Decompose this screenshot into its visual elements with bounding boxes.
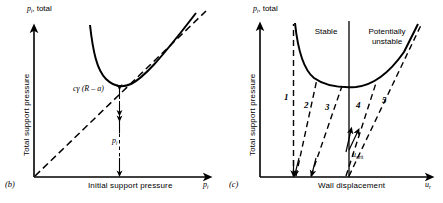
panel-b-x-axis-title: Initial support pressure — [88, 181, 173, 190]
panel-c-region-unstable-line1: Potentially — [369, 27, 406, 36]
panel-b-y-top-rest: , total — [32, 4, 52, 13]
panel-c-region-stable-label: Stable — [306, 27, 346, 37]
panel-b-x-var-sub: i — [207, 184, 208, 190]
panel-b-y-axis-title: Total support pressure — [22, 74, 31, 156]
panel-c-y-top-label: pi, total — [253, 4, 278, 16]
panel-c-y-top-rest: , total — [258, 4, 278, 13]
panel-c-support-line-2 — [296, 79, 317, 176]
panel-c-ucrit-sub: crit — [356, 154, 363, 160]
panel-c-y-axis-title: Total support pressure — [248, 74, 257, 156]
panel-c-ucrit-label: ucrit — [352, 150, 363, 162]
panel-b-total-pressure-curve — [90, 13, 196, 86]
panel-b-pi-annotation: pi — [112, 136, 117, 148]
panel-c-tag: (c) — [229, 180, 238, 189]
panel-c-x-axis-title: Wall displacement — [318, 181, 385, 190]
panel-b-y-top-label: pi, total — [27, 4, 52, 16]
panel-c-x-var-sub: r — [429, 184, 431, 190]
panel-c-region-unstable-line2: unstable — [372, 37, 402, 46]
panel-c-x-axis-var: ur — [425, 180, 431, 192]
panel-b-cgamma-annotation: cγ (R – a) — [73, 84, 104, 93]
panel-b: pi, total Total support pressure Initial… — [0, 0, 221, 203]
panel-c: pi, total Total support pressure Stable … — [222, 0, 443, 203]
panel-c-curve-label-2: 2 — [304, 101, 309, 110]
panel-c-curve-label-4: 4 — [356, 101, 361, 110]
panel-b-plot — [0, 0, 221, 203]
panel-b-x-axis-var: pi — [203, 180, 208, 192]
panel-c-region-unstable-label: Potentially unstable — [358, 27, 416, 47]
panel-c-curve-label-1: 1 — [284, 93, 289, 102]
panel-b-reference-line — [35, 11, 206, 176]
panel-c-arrow-3 — [312, 158, 316, 174]
panel-b-tag: (b) — [5, 180, 15, 189]
panel-b-pi-var-sub: i — [116, 140, 117, 146]
panel-c-support-line-3 — [311, 86, 342, 176]
panel-c-curve-label-5: 5 — [382, 96, 387, 105]
figure-root: pi, total Total support pressure Initial… — [0, 0, 443, 203]
panel-c-curve-label-3: 3 — [325, 103, 330, 112]
